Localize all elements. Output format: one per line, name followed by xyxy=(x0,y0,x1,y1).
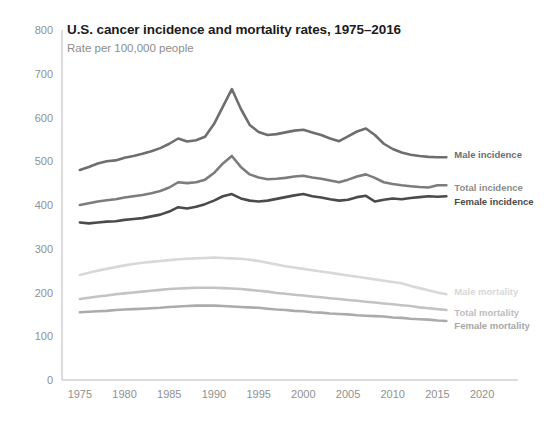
x-axis-tick-label: 2000 xyxy=(291,388,315,400)
x-axis-tick-label: 2005 xyxy=(336,388,360,400)
y-axis-tick-label: 700 xyxy=(35,68,53,80)
chart-plot-area: 0100200300400500600700800 19751980198519… xyxy=(0,0,554,422)
x-axis-tick-label: 1985 xyxy=(157,388,181,400)
x-axis-tick-label: 1975 xyxy=(68,388,92,400)
x-axis-tick-group: 1975198019851990199520002005201020152020 xyxy=(68,388,495,400)
y-axis-tick-group: 0100200300400500600700800 xyxy=(35,24,53,386)
series-label-male-mortality: Male mortality xyxy=(454,286,519,297)
y-axis-tick-label: 200 xyxy=(35,287,53,299)
y-axis-tick-label: 0 xyxy=(47,374,53,386)
x-axis-tick-label: 1990 xyxy=(202,388,226,400)
series-line-female-incidence xyxy=(80,194,446,223)
series-label-male-incidence: Male incidence xyxy=(454,149,522,160)
y-axis-tick-label: 500 xyxy=(35,155,53,167)
series-line-total-mortality xyxy=(80,288,446,310)
y-axis-tick-label: 600 xyxy=(35,112,53,124)
data-series-group xyxy=(80,89,446,321)
series-line-male-incidence xyxy=(80,89,446,170)
chart-container: U.S. cancer incidence and mortality rate… xyxy=(0,0,554,422)
y-axis-tick-label: 800 xyxy=(35,24,53,36)
series-label-total-incidence: Total incidence xyxy=(454,182,522,193)
series-line-male-mortality xyxy=(80,258,446,295)
x-axis-tick-label: 1980 xyxy=(112,388,136,400)
x-axis-tick-label: 2015 xyxy=(425,388,449,400)
y-axis-tick-label: 300 xyxy=(35,243,53,255)
inline-series-label-group: Male incidenceTotal incidenceFemale inci… xyxy=(454,149,533,331)
y-axis-tick-label: 100 xyxy=(35,330,53,342)
x-axis-tick-label: 2010 xyxy=(380,388,404,400)
series-line-female-mortality xyxy=(80,306,446,321)
series-label-female-mortality: Female mortality xyxy=(454,320,530,331)
x-axis-tick-label: 1995 xyxy=(246,388,270,400)
y-axis-tick-label: 400 xyxy=(35,199,53,211)
x-axis-tick-label: 2020 xyxy=(470,388,494,400)
series-label-female-incidence: Female incidence xyxy=(454,196,533,207)
series-label-total-mortality: Total mortality xyxy=(454,307,519,318)
